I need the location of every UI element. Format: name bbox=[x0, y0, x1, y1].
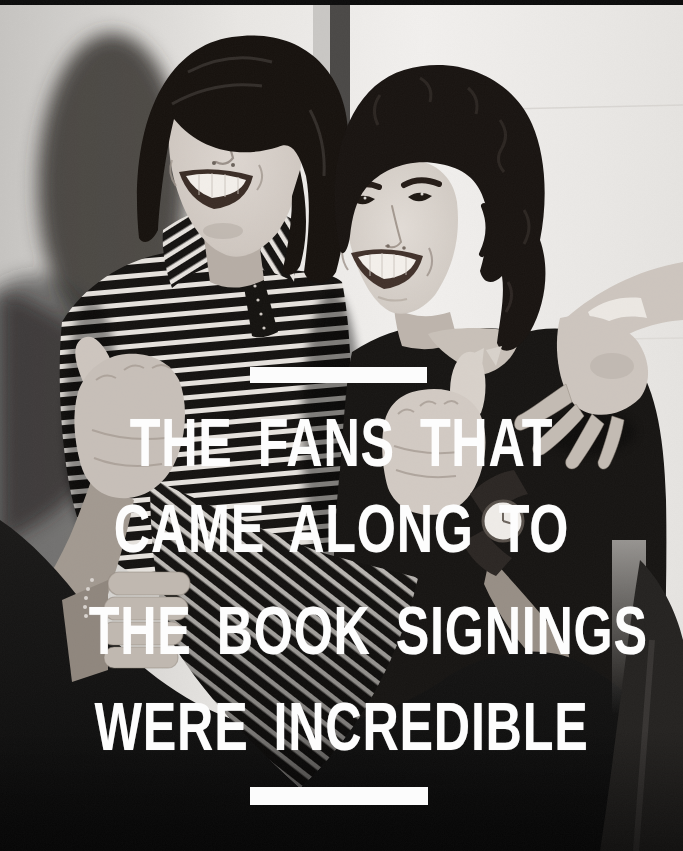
quote-line-4: WERE INCREDIBLE bbox=[89, 692, 594, 760]
quote-line-1: THE FANS THAT bbox=[89, 408, 594, 476]
quote-line-3: THE BOOK SIGNINGS bbox=[89, 596, 594, 664]
quote-overlay: THE FANS THAT CAME ALONG TO THE BOOK SIG… bbox=[0, 0, 683, 851]
photo-quote-page: THE FANS THAT CAME ALONG TO THE BOOK SIG… bbox=[0, 0, 683, 851]
quote-divider-top bbox=[250, 367, 427, 383]
quote-line-2: CAME ALONG TO bbox=[89, 494, 594, 562]
quote-divider-bottom bbox=[250, 787, 428, 805]
